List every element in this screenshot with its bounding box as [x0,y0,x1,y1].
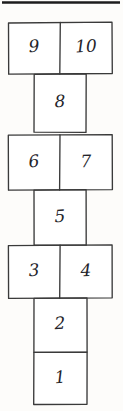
cell-number-1: 1 [39,368,80,388]
cell-number-10: 10 [66,37,107,56]
cell-number-6: 6 [13,151,54,171]
cell-number-2: 2 [40,314,81,333]
cell-number-5: 5 [40,207,81,226]
cell-number-3: 3 [13,261,54,281]
cell-number-4: 4 [66,261,107,279]
hopscotch-diagram: 10987654321 [0,0,123,411]
cell-number-9: 9 [13,37,54,57]
cell-divider-9-10 [60,22,61,74]
cell-number-8: 8 [40,92,81,110]
cell-number-7: 7 [66,152,107,170]
